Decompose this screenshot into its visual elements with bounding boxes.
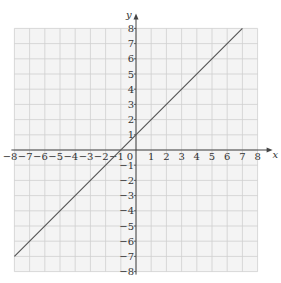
- y-tick-label: −8: [119, 266, 134, 277]
- y-tick-label: −7: [119, 251, 134, 262]
- y-tick-label: 1: [128, 129, 134, 140]
- x-tick-label: −7: [18, 151, 33, 162]
- x-axis-label: x: [273, 149, 279, 160]
- x-tick-label: −5: [48, 151, 63, 162]
- y-tick-label: 8: [128, 23, 134, 34]
- y-tick-label: 2: [128, 114, 134, 125]
- x-tick-label: −6: [33, 151, 48, 162]
- coordinate-grid-chart: xy−8−7−6−5−4−3−2−1012345678−8−7−6−5−4−3−…: [0, 0, 281, 283]
- x-tick-label: 1: [148, 151, 154, 162]
- y-tick-label: 5: [128, 69, 134, 80]
- y-tick-label: 4: [128, 84, 134, 95]
- y-tick-label: −2: [119, 175, 134, 186]
- y-tick-label: −5: [119, 221, 134, 232]
- x-tick-label: 3: [178, 151, 184, 162]
- x-tick-label: 5: [209, 151, 215, 162]
- y-tick-label: 6: [128, 53, 134, 64]
- y-axis-arrow-icon: [134, 13, 139, 19]
- x-tick-label: 8: [254, 151, 260, 162]
- x-tick-label: −4: [63, 151, 78, 162]
- y-tick-label: 3: [128, 99, 134, 110]
- x-tick-label: −3: [79, 151, 94, 162]
- x-tick-label: 6: [224, 151, 230, 162]
- y-tick-label: −1: [119, 160, 134, 171]
- x-tick-label: 7: [239, 151, 245, 162]
- y-tick-label: −3: [119, 190, 134, 201]
- y-tick-label: −6: [119, 236, 134, 247]
- y-axis-label: y: [125, 9, 132, 20]
- y-tick-label: 7: [128, 38, 134, 49]
- y-tick-label: −4: [119, 205, 134, 216]
- x-tick-label: −2: [94, 151, 109, 162]
- x-tick-label: 2: [163, 151, 169, 162]
- x-tick-label: 4: [194, 151, 200, 162]
- x-tick-label: −8: [3, 151, 18, 162]
